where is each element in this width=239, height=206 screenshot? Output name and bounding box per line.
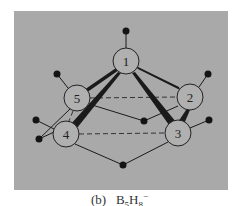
atom-2-label: 2 (187, 90, 194, 105)
atom-4: 4 (53, 121, 79, 147)
atom-2: 2 (177, 84, 203, 110)
hydrogen-bridge-4-5 (36, 136, 43, 143)
atom-3: 3 (165, 120, 191, 146)
dashed-5-4 (69, 111, 73, 121)
hydrogen-4 (33, 117, 40, 124)
bond-4-hbot (75, 144, 123, 165)
boron-atoms: 1 2 3 4 5 (53, 48, 203, 147)
caption-boron: B (116, 192, 125, 206)
hydrogen-3 (206, 117, 213, 124)
b5h8-molecule-diagram: 1 2 3 4 5 (0, 0, 239, 206)
molecule-figure: 1 2 3 4 5 (0, 0, 239, 206)
hydrogen-5 (54, 71, 61, 78)
bond-5-hmid (89, 104, 144, 121)
bond-hbot-3 (123, 142, 168, 165)
dashed-5-2 (90, 97, 177, 98)
atom-4-label: 4 (63, 127, 70, 142)
atom-3-label: 3 (175, 126, 182, 141)
atom-5-label: 5 (74, 91, 81, 106)
caption-label: (b) (91, 192, 106, 206)
figure-caption: (b) B5H8− (0, 191, 239, 206)
caption-charge: − (143, 191, 148, 201)
atom-1-label: 1 (123, 54, 130, 69)
atom-5: 5 (64, 85, 90, 111)
hydrogen-2 (205, 71, 212, 78)
hydrogen-bridge-middle (141, 118, 148, 125)
hydrogen-1 (123, 28, 130, 35)
hydrogen-bridge-bottom (120, 162, 127, 169)
atom-1: 1 (113, 48, 139, 74)
dashed-4-3 (79, 133, 165, 134)
